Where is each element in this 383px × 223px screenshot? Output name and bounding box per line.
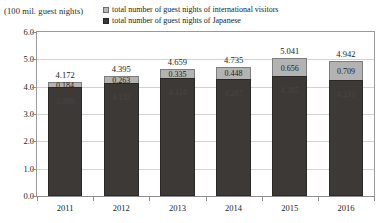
bar-segment-japanese[interactable]: 4.287	[216, 79, 251, 196]
x-tick-mark	[206, 197, 207, 201]
bar-stack: 0.6564.385	[272, 58, 307, 196]
x-tick-label: 2014	[225, 203, 242, 213]
bar-segment-value-japanese: 4.287	[217, 89, 250, 98]
bar-group[interactable]: 0.3354.3244.659	[160, 32, 195, 196]
x-tick-label: 2012	[113, 203, 130, 213]
bar-segment-value-international: 0.448	[217, 69, 250, 78]
x-tick-label: 2015	[281, 203, 298, 213]
x-tick-label: 2013	[169, 203, 186, 213]
bars-layer: 0.1843.9884.1720.2634.1324.3950.3354.324…	[37, 32, 374, 196]
bar-segment-value-japanese: 3.988	[49, 97, 82, 106]
bar-segment-value-japanese: 4.233	[330, 90, 363, 99]
bar-total-value: 4.395	[104, 64, 139, 74]
bar-segment-international[interactable]: 0.335	[160, 69, 195, 78]
bar-group[interactable]: 0.2634.1324.395	[104, 32, 139, 196]
x-tick-mark	[262, 197, 263, 201]
y-tick-mark	[32, 32, 36, 33]
x-tick-mark	[149, 197, 150, 201]
x-tick-mark	[374, 197, 375, 201]
y-tick-mark	[32, 169, 36, 170]
y-tick-label: 1.0	[4, 164, 34, 174]
y-tick-mark	[32, 87, 36, 88]
bar-segment-japanese[interactable]: 4.132	[104, 83, 139, 196]
bar-total-value: 4.172	[48, 70, 83, 80]
y-tick-mark	[32, 141, 36, 142]
bar-segment-international[interactable]: 0.656	[272, 58, 307, 76]
bar-group[interactable]: 0.6564.3855.041	[272, 32, 307, 196]
bar-stack: 0.7094.233	[329, 61, 364, 196]
bar-segment-value-international: 0.709	[330, 67, 363, 76]
y-tick-label: 5.0	[4, 54, 34, 64]
legend-item-japanese: total number of guest nights of Japanese	[103, 16, 278, 26]
x-tick-label: 2011	[57, 203, 74, 213]
bar-segment-japanese[interactable]: 4.385	[272, 76, 307, 196]
bar-segment-value-japanese: 4.385	[273, 86, 306, 95]
bar-segment-value-japanese: 4.132	[105, 93, 138, 102]
x-tick-label: 2016	[337, 203, 354, 213]
y-tick-label: 2.0	[4, 136, 34, 146]
y-tick-label: 3.0	[4, 109, 34, 119]
bar-segment-international[interactable]: 0.709	[329, 61, 364, 80]
x-tick-mark	[318, 197, 319, 201]
bar-group[interactable]: 0.4484.2874.735	[216, 32, 251, 196]
x-tick-mark	[93, 197, 94, 201]
y-tick-label: 0.0	[4, 191, 34, 201]
bar-stack: 0.2634.132	[104, 76, 139, 196]
bar-segment-international[interactable]: 0.448	[216, 67, 251, 79]
bar-total-value: 4.735	[216, 55, 251, 65]
bar-stack: 0.4484.287	[216, 67, 251, 196]
bar-segment-value-japanese: 4.324	[161, 88, 194, 97]
bar-total-value: 5.041	[272, 46, 307, 56]
y-axis-unit-caption: (100 mil. guest nights)	[4, 6, 83, 16]
y-tick-label: 4.0	[4, 82, 34, 92]
legend-label-japanese: total number of guest nights of Japanese	[112, 16, 241, 26]
bar-stack: 0.1843.988	[48, 82, 83, 196]
bar-total-value: 4.659	[160, 57, 195, 67]
bar-segment-value-international: 0.656	[273, 63, 306, 72]
bar-total-value: 4.942	[329, 49, 364, 59]
chart-legend: total number of guest nights of internat…	[103, 5, 278, 26]
legend-label-international: total number of guest nights of internat…	[112, 5, 278, 15]
bar-stack: 0.3354.324	[160, 69, 195, 196]
bar-segment-japanese[interactable]: 4.233	[329, 80, 364, 196]
legend-swatch-icon-japanese	[103, 18, 109, 24]
x-tick-mark	[37, 197, 38, 201]
bar-group[interactable]: 0.1843.9884.172	[48, 32, 83, 196]
bar-segment-international[interactable]: 0.263	[104, 76, 139, 83]
bar-group[interactable]: 0.7094.2334.942	[329, 32, 364, 196]
bar-segment-japanese[interactable]: 4.324	[160, 78, 195, 196]
y-tick-label: 6.0	[4, 27, 34, 37]
y-tick-mark	[32, 59, 36, 60]
bar-segment-japanese[interactable]: 3.988	[48, 87, 83, 196]
y-tick-mark	[32, 114, 36, 115]
legend-item-international: total number of guest nights of internat…	[103, 5, 278, 15]
stacked-bar-chart: (100 mil. guest nights) total number of …	[0, 0, 383, 223]
legend-swatch-icon-international	[103, 7, 109, 13]
